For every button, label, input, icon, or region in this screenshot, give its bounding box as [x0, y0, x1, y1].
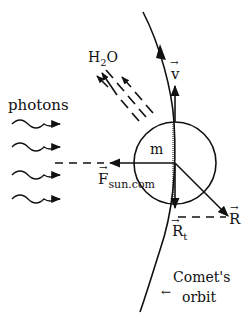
water-label: H2O — [88, 49, 118, 68]
water-outgassing — [97, 70, 153, 121]
photon-wave — [12, 195, 60, 203]
reaction-label: R — [229, 210, 241, 228]
force-label: Fsun.com — [98, 170, 156, 191]
orbit-label-line2: orbit — [182, 289, 217, 305]
tangential-reaction-label: Rt — [172, 222, 187, 242]
mass-label: m — [150, 141, 163, 157]
photons-label: photons — [8, 96, 69, 114]
photon-wave — [12, 171, 60, 179]
photon-wave — [12, 143, 60, 151]
comet-diagram: photons H2O → v m → Fsun.com → Rt → R Co… — [0, 0, 251, 323]
orbit-arrow-glyph: ← — [161, 285, 171, 299]
reaction-arrow — [175, 163, 228, 216]
velocity-label: v — [170, 65, 180, 83]
photon-wave — [12, 120, 60, 128]
photon-arrows — [12, 120, 60, 203]
orbit-label-line1: Comet's — [173, 269, 230, 285]
